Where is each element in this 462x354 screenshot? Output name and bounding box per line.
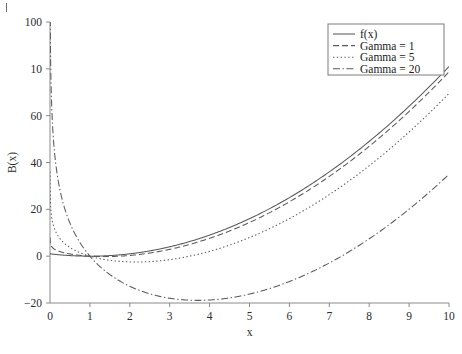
x-tick-label: 9 [406, 310, 412, 322]
legend-label: Gamma = 1 [360, 40, 415, 52]
x-tick-label: 7 [326, 310, 332, 322]
x-tick-label: 5 [247, 310, 253, 322]
y-tick-label: 40 [31, 157, 43, 169]
y-tick-label: 60 [31, 110, 43, 122]
y-tick-label: −20 [24, 297, 42, 309]
x-tick-label: 6 [287, 310, 293, 322]
scan-artifact-mark [6, 3, 7, 12]
y-tick-label: 100 [25, 16, 43, 28]
figure-container: −20020406010100012345678910xB(x)f(x)Gamm… [0, 0, 462, 354]
curve-gamma-5 [50, 93, 449, 262]
legend-label: Gamma = 20 [360, 63, 420, 75]
x-tick-label: 8 [366, 310, 372, 322]
curve-f-x [50, 66, 449, 256]
legend-label: Gamma = 5 [360, 51, 415, 63]
x-tick-label: 4 [207, 310, 213, 322]
curve-gamma-1 [50, 72, 449, 257]
x-tick-label: 0 [47, 310, 53, 322]
y-axis-title: B(x) [6, 152, 19, 173]
y-tick-label: 0 [36, 250, 42, 262]
y-tick-label: 20 [31, 203, 43, 215]
y-tick-label: 10 [31, 63, 43, 75]
x-tick-label: 3 [167, 310, 173, 322]
x-tick-label: 10 [443, 310, 455, 322]
x-tick-label: 1 [87, 310, 93, 322]
x-axis-title: x [247, 326, 253, 338]
barrier-function-chart: −20020406010100012345678910xB(x)f(x)Gamm… [0, 0, 462, 354]
x-tick-label: 2 [127, 310, 133, 322]
